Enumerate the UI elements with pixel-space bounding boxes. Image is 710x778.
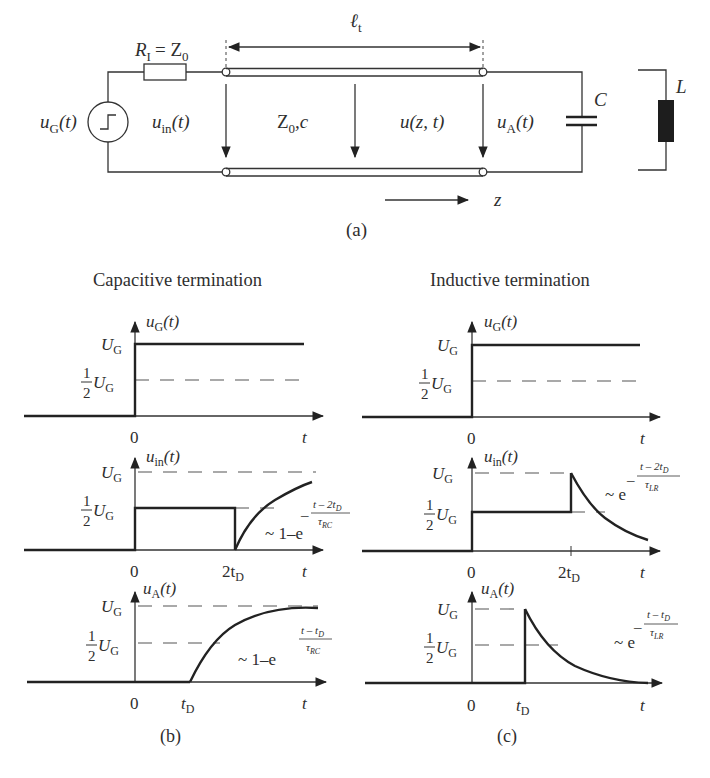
figure-label-b: (b): [160, 726, 181, 747]
formula-minus: –: [626, 472, 635, 488]
load-bottom-wire: [487, 125, 582, 172]
formula-numerator: t – 2tD: [313, 498, 342, 513]
x-zero-label: 0: [130, 694, 139, 713]
panel-capacitive: Capacitive termination uG(t) UG 1 2 UG 0…: [24, 270, 350, 747]
line-impedance-label: Z0,c: [277, 111, 309, 136]
x-zero-label: 0: [467, 563, 476, 582]
plot-output-voltage: uA(t) UG 1 2 UG 0 tD t ~ 1–e t – tD τRC: [27, 579, 332, 716]
half-ug-tick-label: UG: [93, 501, 114, 523]
x-zero-label: 0: [467, 429, 476, 448]
y-axis-label: uA(t): [481, 579, 515, 601]
y-axis-label: uin(t): [484, 447, 518, 469]
half-numerator: 1: [88, 628, 96, 644]
panel-title: Inductive termination: [430, 270, 590, 290]
half-denominator: 2: [83, 513, 91, 529]
decay-curve: [571, 473, 648, 540]
formula-base: ~ 1–e: [265, 524, 303, 543]
wave-voltage-label: u(z, t): [400, 111, 444, 133]
half-denominator: 2: [426, 517, 434, 533]
formula-minus: –: [633, 619, 642, 635]
formula-numerator: t – 2tD: [640, 460, 669, 475]
x-axis-label: t: [640, 696, 646, 715]
resistor-icon: [144, 64, 186, 80]
inductor-icon: [658, 100, 674, 142]
y-axis-label: uA(t): [143, 579, 177, 601]
y-axis-label: uin(t): [146, 447, 180, 469]
y-axis-label: uG(t): [484, 312, 518, 334]
terminal-icon: [222, 68, 230, 76]
x-axis-label: t: [302, 428, 308, 447]
half-denominator: 2: [426, 650, 434, 666]
terminal-icon: [479, 68, 487, 76]
x-mark-label: 2tD: [558, 563, 580, 585]
x-mark-label: tD: [516, 696, 530, 718]
half-ug-tick-label: UG: [431, 374, 452, 396]
half-denominator: 2: [88, 648, 96, 664]
transmission-line-figure: RI= Z0 uG(t) uin(t) Z0,c u(z, t) uA(t) ℓ…: [0, 0, 710, 778]
x-axis-label: t: [302, 694, 308, 713]
x-axis-label: t: [640, 563, 646, 582]
formula-base: ~ 1–e: [238, 650, 276, 669]
x-mark-label: tD: [181, 694, 195, 716]
panel-inductive: Inductive termination uG(t) UG 1 2 UG 0 …: [362, 270, 680, 747]
ug-tick-label: UG: [437, 600, 458, 622]
ug-tick-label: UG: [432, 464, 453, 486]
formula-denominator: τRC: [306, 641, 321, 656]
input-step-curve: [362, 473, 571, 551]
source-bottom-wire: [108, 142, 222, 172]
ug-tick-label: UG: [437, 336, 458, 358]
x-axis-label: t: [302, 562, 308, 581]
inductor-label: L: [675, 76, 687, 97]
x-mark-label: 2tD: [222, 562, 244, 584]
half-numerator: 1: [83, 365, 91, 381]
step-glyph-icon: [100, 115, 116, 129]
half-ug-tick-label: UG: [436, 505, 457, 527]
resistor-label: RI= Z0: [134, 39, 189, 64]
formula-numerator: t – tD: [647, 608, 670, 623]
half-numerator: 1: [421, 366, 429, 382]
figure-label-c: (c): [497, 726, 517, 747]
half-numerator: 1: [426, 630, 434, 646]
terminal-icon: [479, 168, 487, 176]
x-axis-label: t: [640, 429, 646, 448]
plot-input-voltage: uin(t) UG 1 2 UG 0 2tD t ~ e – t – 2tD τ…: [362, 447, 680, 585]
circuit-diagram: RI= Z0 uG(t) uin(t) Z0,c u(z, t) uA(t) ℓ…: [40, 10, 687, 241]
ug-tick-label: UG: [101, 597, 122, 619]
formula-denominator: τLR: [645, 478, 658, 493]
half-denominator: 2: [421, 386, 429, 402]
source-label: uG(t): [40, 111, 77, 136]
z-label: z: [493, 189, 502, 210]
ug-tick-label: UG: [101, 335, 122, 357]
half-numerator: 1: [426, 497, 434, 513]
capacitor-icon: [566, 117, 597, 125]
x-zero-label: 0: [467, 696, 476, 715]
plot-source-voltage: uG(t) UG 1 2 UG 0 t: [24, 312, 323, 447]
half-ug-tick-label: UG: [436, 638, 457, 660]
formula-denominator: τRC: [318, 515, 333, 530]
input-pulse-curve: [24, 508, 235, 550]
formula-minus: –: [300, 507, 309, 523]
x-zero-label: 0: [130, 428, 139, 447]
formula-base: ~ e: [605, 485, 626, 504]
half-numerator: 1: [83, 493, 91, 509]
input-voltage-label: uin(t): [152, 111, 190, 136]
plot-input-voltage: uin(t) UG 1 2 UG 0 2tD t ~ 1–e – t – 2tD…: [24, 447, 350, 584]
y-axis-label: uG(t): [146, 312, 180, 334]
formula-base: ~ e: [614, 633, 635, 652]
panel-title: Capacitive termination: [93, 270, 262, 290]
charging-curve: [190, 608, 318, 682]
plot-output-voltage: uA(t) UG 1 2 UG 0 tD t ~ e – t – tD τLR: [365, 579, 678, 718]
half-ug-tick-label: UG: [98, 636, 119, 658]
half-ug-tick-label: UG: [93, 373, 114, 395]
source-top-wire: [108, 72, 144, 102]
x-zero-label: 0: [130, 562, 139, 581]
figure-label-a: (a): [346, 219, 367, 241]
formula-numerator: t – tD: [301, 624, 324, 639]
output-voltage-label: uA(t): [497, 111, 534, 136]
formula-denominator: τLR: [650, 626, 663, 641]
terminal-icon: [222, 168, 230, 176]
length-label: ℓt: [350, 10, 362, 35]
capacitor-label: C: [594, 89, 607, 110]
half-denominator: 2: [83, 385, 91, 401]
plot-source-voltage: uG(t) UG 1 2 UG 0 t: [362, 312, 660, 448]
